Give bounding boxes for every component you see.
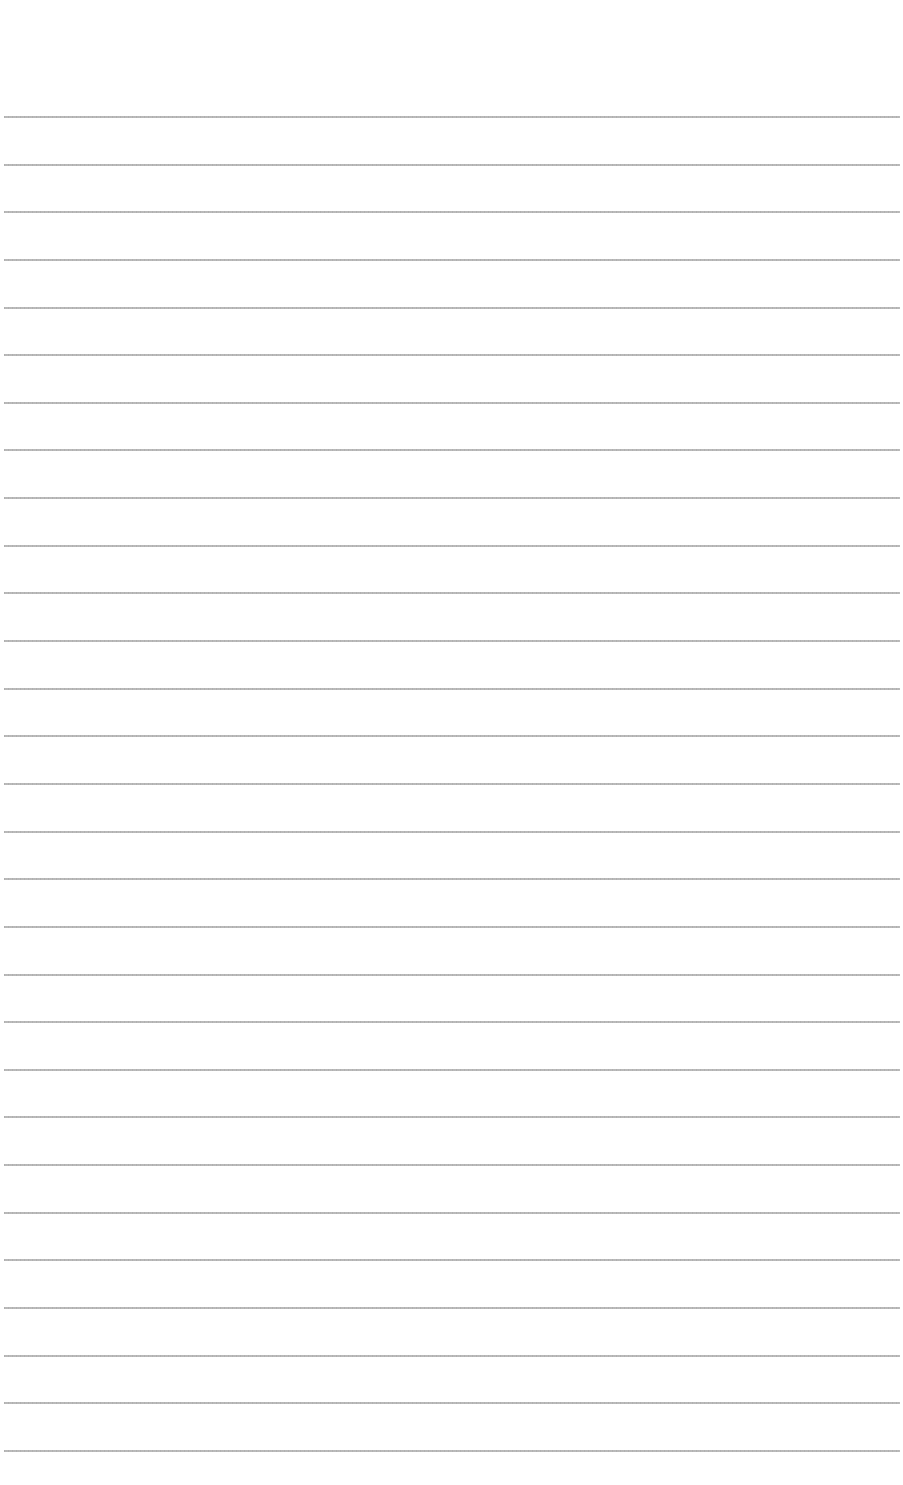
ruled-line (4, 974, 900, 976)
ruled-line (4, 1450, 900, 1452)
ruled-line (4, 307, 900, 309)
ruled-line (4, 354, 900, 356)
ruled-line (4, 1164, 900, 1166)
ruled-line (4, 1021, 900, 1023)
ruled-line (4, 688, 900, 690)
ruled-line (4, 1259, 900, 1261)
ruled-line (4, 164, 900, 166)
ruled-line (4, 783, 900, 785)
ruled-line (4, 259, 900, 261)
ruled-line (4, 1402, 900, 1404)
ruled-line (4, 1307, 900, 1309)
ruled-line (4, 1212, 900, 1214)
ruled-line (4, 211, 900, 213)
ruled-line (4, 1355, 900, 1357)
ruled-line (4, 449, 900, 451)
ruled-line (4, 735, 900, 737)
ruled-line (4, 545, 900, 547)
ruled-line (4, 640, 900, 642)
ruled-line (4, 402, 900, 404)
ruled-line (4, 831, 900, 833)
ruled-line (4, 878, 900, 880)
ruled-line (4, 1116, 900, 1118)
ruled-line (4, 497, 900, 499)
ruled-line (4, 592, 900, 594)
ruled-paper-page (0, 0, 903, 1485)
ruled-line (4, 116, 900, 118)
ruled-line (4, 1069, 900, 1071)
ruled-line (4, 926, 900, 928)
